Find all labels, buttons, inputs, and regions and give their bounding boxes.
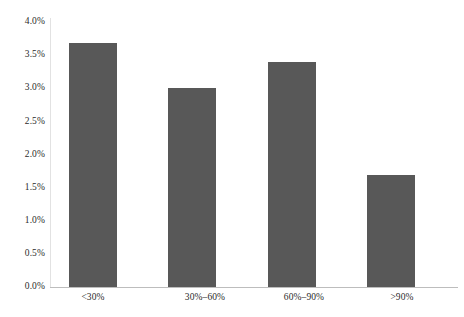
- plot-area: [0, 0, 464, 317]
- x-tick-label: <30%: [33, 291, 153, 304]
- bar: [367, 175, 415, 287]
- bar: [268, 62, 316, 287]
- bar-chart: 4.0% 3.5% 3.0% 2.5% 2.0% 1.5% 1.0% 0.5% …: [0, 0, 464, 317]
- bar: [168, 88, 216, 287]
- x-axis-line: [50, 287, 458, 288]
- x-tick-label: >90%: [342, 291, 462, 304]
- bar: [69, 43, 117, 287]
